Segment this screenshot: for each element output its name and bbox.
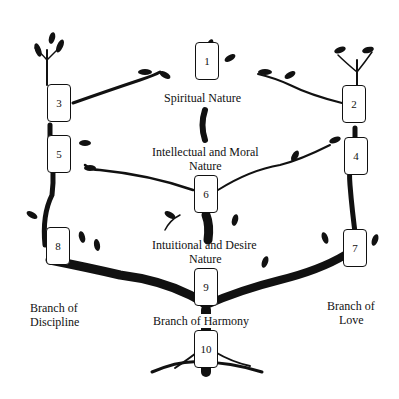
box-number: 9 (203, 281, 209, 293)
box-number: 3 (56, 97, 62, 109)
label-spiritual-nature: Spiritual Nature (164, 91, 241, 105)
label-intuitional-line1: Intuitional and Desire (152, 238, 257, 252)
sephira-box-1: 1 (195, 42, 219, 80)
label-love-line1: Branch of (327, 299, 375, 313)
box-number: 6 (203, 188, 209, 200)
tree-diagram: 1 2 3 4 5 6 7 8 9 10 Spiritual Nature In… (0, 0, 399, 399)
sephira-box-7: 7 (343, 229, 367, 267)
label-discipline-line2: Discipline (30, 315, 79, 329)
label-intellectual-line2: Nature (189, 159, 222, 173)
box-number: 7 (352, 242, 358, 254)
sephira-box-5: 5 (47, 135, 71, 173)
label-intellectual-line1: Intellectual and Moral (152, 145, 259, 159)
sephira-box-4: 4 (344, 137, 368, 175)
sephira-box-6: 6 (194, 175, 218, 213)
label-harmony: Branch of Harmony (152, 314, 250, 328)
box-number: 5 (56, 148, 62, 160)
sephira-box-8: 8 (46, 227, 70, 265)
sephira-box-3: 3 (47, 84, 71, 122)
label-intuitional-line2: Nature (189, 252, 222, 266)
box-number: 2 (351, 98, 357, 110)
label-love-line2: Love (339, 313, 364, 327)
label-discipline-line1: Branch of (30, 301, 78, 315)
sephira-box-10: 10 (194, 330, 218, 368)
box-number: 1 (204, 55, 210, 67)
sephira-box-9: 9 (194, 268, 218, 306)
box-number: 4 (353, 150, 359, 162)
box-number: 10 (201, 343, 212, 355)
sephira-box-2: 2 (342, 85, 366, 123)
box-number: 8 (55, 240, 61, 252)
